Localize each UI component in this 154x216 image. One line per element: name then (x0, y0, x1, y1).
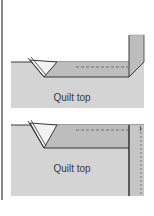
binding-strip-folded-down (129, 125, 144, 196)
quilt-top-label: Quilt top (32, 163, 112, 174)
binding-strip (44, 125, 129, 148)
binding-diagram: Quilt top Quilt top (0, 0, 154, 216)
diagram-graphic (0, 0, 154, 216)
binding-strip (44, 62, 129, 77)
panel-step-2 (11, 120, 144, 196)
quilt-top-label: Quilt top (32, 92, 112, 103)
